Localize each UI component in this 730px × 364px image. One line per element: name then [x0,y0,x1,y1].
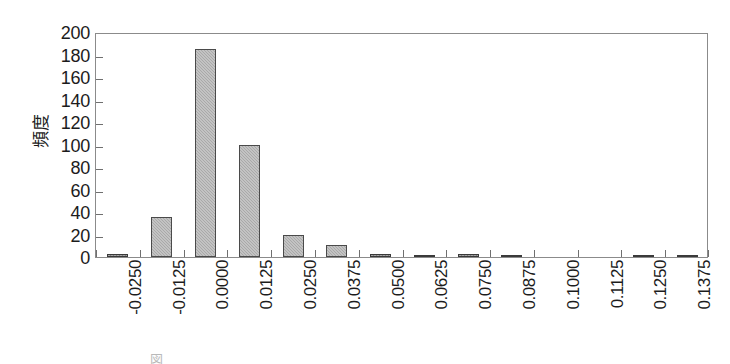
y-axis-tick-label: 20 [20,227,90,245]
x-axis-tick-mark [227,250,228,257]
bar [107,254,128,257]
x-axis-tick-label: 0.1375 [695,260,715,346]
y-axis-tick-mark [96,169,103,170]
x-axis-tick-mark [184,250,185,257]
x-axis-tick-mark [315,250,316,257]
figure-caption: 図 [150,352,580,364]
bar [677,255,698,257]
x-axis-tick-label: 0.1125 [608,260,628,346]
y-axis-tick-label: 120 [20,114,90,132]
y-axis-tick-mark [96,57,103,58]
x-axis-tick-mark [534,250,535,257]
y-axis-tick-mark [96,124,103,125]
x-axis-tick-labels: -0.0250-0.01250.00000.01250.02500.03750.… [95,262,708,348]
bar [239,145,260,258]
y-axis-tick-label: 60 [20,182,90,200]
y-axis-tick-mark [96,214,103,215]
x-axis-tick-label: 0.1000 [564,260,584,346]
x-axis-tick-label: -0.0250 [126,260,146,346]
x-axis-tick-mark [359,250,360,257]
y-axis-tick-mark [96,237,103,238]
bar [283,235,304,258]
plot-inner [96,34,707,257]
bar [414,255,435,257]
x-axis-tick-mark [708,250,709,257]
y-axis-tick-label: 160 [20,69,90,87]
y-axis-tick-mark [96,102,103,103]
y-axis-tick-label: 140 [20,92,90,110]
x-axis-tick-mark [140,250,141,257]
histogram-figure: 頻度 020406080100120140160180200 -0.0250-0… [0,0,730,364]
y-axis-tick-label: 40 [20,204,90,222]
x-axis-tick-mark [490,250,491,257]
x-axis-tick-mark [403,250,404,257]
y-axis-tick-labels: 020406080100120140160180200 [20,22,90,268]
y-axis-tick-label: 80 [20,159,90,177]
y-axis-tick-label: 100 [20,137,90,155]
bar [151,217,172,258]
x-axis-tick-label: 0.0250 [301,260,321,346]
x-axis-tick-mark [96,250,97,257]
y-axis-tick-mark [96,192,103,193]
x-axis-tick-label: 0.0125 [257,260,277,346]
y-axis-tick-label: 200 [20,24,90,42]
bar [633,255,654,257]
x-axis-tick-mark [578,250,579,257]
x-axis-tick-mark [621,250,622,257]
x-axis-tick-mark [665,250,666,257]
x-axis-tick-label: 0.0750 [476,260,496,346]
x-axis-tick-label: 0.0000 [213,260,233,346]
x-axis-tick-mark [271,250,272,257]
bar [195,49,216,257]
x-axis-tick-label: 0.0375 [345,260,365,346]
y-axis-tick-mark [96,79,103,80]
bar [370,254,391,257]
y-axis-tick-label: 180 [20,47,90,65]
y-axis-tick-label: 0 [20,249,90,267]
plot-area [95,33,708,258]
x-axis-tick-label: 0.0500 [389,260,409,346]
y-axis-tick-mark [96,147,103,148]
x-axis-tick-label: 0.0875 [520,260,540,346]
bar [458,254,479,257]
bar [326,245,347,257]
bar [501,255,522,257]
x-axis-tick-label: 0.1250 [651,260,671,346]
x-axis-tick-label: 0.0625 [432,260,452,346]
x-axis-tick-mark [446,250,447,257]
x-axis-tick-label: -0.0125 [170,260,190,346]
